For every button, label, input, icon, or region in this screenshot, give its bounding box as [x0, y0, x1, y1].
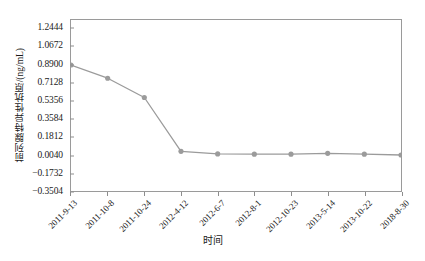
- data-point: [252, 152, 257, 157]
- y-tick-label: −0.1732: [32, 169, 63, 179]
- data-point: [178, 149, 183, 154]
- y-tick-label: 0.5356: [37, 96, 63, 106]
- y-tick-label: 0.1812: [37, 133, 63, 143]
- y-tick-mark: [70, 155, 74, 156]
- x-axis-tick-labels: 2011-9-132011-10-82011-10-242012-4-12201…: [0, 192, 425, 237]
- line-chart-canvas: [71, 20, 401, 191]
- y-tick-mark: [70, 192, 74, 193]
- y-tick-label: 0.8900: [37, 60, 63, 70]
- y-tick-label: 0.0040: [37, 151, 63, 161]
- y-tick-label: 1.0672: [37, 42, 63, 52]
- data-point: [142, 95, 147, 100]
- y-tick-label: 0.7128: [37, 78, 63, 88]
- data-point: [288, 152, 293, 157]
- y-tick-mark: [70, 82, 74, 83]
- chart-figure: 前列腺特异性抗原/(ng/mL) 1.24441.06720.89000.712…: [0, 0, 425, 261]
- y-tick-mark: [70, 46, 74, 47]
- data-point: [325, 151, 330, 156]
- y-axis-tick-labels: 1.24441.06720.89000.71280.53560.35840.18…: [0, 19, 68, 192]
- data-point: [398, 152, 401, 157]
- series-line: [71, 65, 401, 155]
- y-tick-mark: [70, 119, 74, 120]
- data-point: [215, 151, 220, 156]
- data-point: [362, 152, 367, 157]
- y-tick-label: 1.2444: [37, 23, 63, 33]
- y-tick-mark: [70, 173, 74, 174]
- y-tick-label: 0.3584: [37, 114, 63, 124]
- x-axis-title-text: 时间: [203, 235, 223, 246]
- y-tick-mark: [70, 64, 74, 65]
- series-markers: [71, 62, 401, 157]
- data-point: [105, 76, 110, 81]
- y-tick-mark: [70, 28, 74, 29]
- plot-area: [70, 19, 402, 192]
- x-axis-title: 时间: [0, 232, 425, 247]
- y-tick-mark: [70, 100, 74, 101]
- y-tick-mark: [70, 137, 74, 138]
